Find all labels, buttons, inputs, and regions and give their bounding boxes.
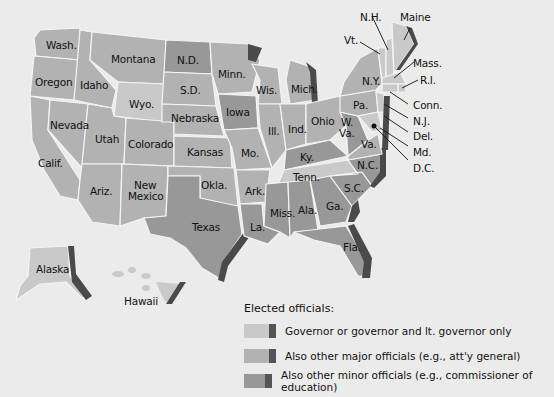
label-ga: Ga. <box>326 201 343 212</box>
label-new-mexico-2: Mexico <box>128 191 163 202</box>
label-mich: Mich. <box>291 84 318 95</box>
label-montana: Montana <box>111 54 155 65</box>
label-nc: N.C. <box>357 160 378 171</box>
legend-swatch-medium <box>244 349 276 363</box>
label-ri: R.I. <box>420 75 436 86</box>
label-tenn: Tenn. <box>293 172 320 183</box>
legend-swatch-dark <box>244 374 272 388</box>
label-miss: Miss. <box>270 208 295 219</box>
label-va: Va. <box>361 139 377 150</box>
legend-item-minor-officials: Also other minor officials (e.g., commis… <box>244 372 554 390</box>
label-ny: N.Y. <box>362 76 380 87</box>
label-texas: Texas <box>192 222 220 233</box>
label-idaho: Idaho <box>80 80 108 91</box>
legend-item-governor-only: Governor or governor and lt. governor on… <box>244 322 554 340</box>
label-pa: Pa. <box>353 100 368 111</box>
legend-label: Governor or governor and lt. governor on… <box>285 325 511 337</box>
dc-marker <box>372 124 377 129</box>
legend: Elected officials: Governor or governor … <box>244 302 554 397</box>
label-wash: Wash. <box>46 40 77 51</box>
label-vt: Vt. <box>344 35 358 46</box>
label-md: Md. <box>413 147 431 158</box>
label-ind: Ind. <box>288 124 307 135</box>
hawaii-island-4 <box>142 285 150 291</box>
label-conn: Conn. <box>413 100 442 111</box>
label-sc: S.C. <box>344 183 364 194</box>
label-sd: S.D. <box>180 85 201 96</box>
label-ky: Ky. <box>300 152 314 163</box>
label-oregon: Oregon <box>35 77 72 88</box>
label-wis: Wis. <box>256 85 277 96</box>
label-la: La. <box>250 222 265 233</box>
state-new-york <box>340 48 382 96</box>
label-wyo: Wyo. <box>129 99 154 110</box>
label-okla: Okla. <box>201 180 227 191</box>
legend-label: Also other minor officials (e.g., commis… <box>281 369 554 393</box>
label-ill: Ill. <box>268 126 279 137</box>
label-nevada: Nevada <box>50 120 89 131</box>
label-utah: Utah <box>95 134 119 145</box>
hawaii-island-3 <box>141 273 151 279</box>
label-del: Del. <box>413 131 433 142</box>
label-ohio: Ohio <box>311 116 334 127</box>
label-maine: Maine <box>400 12 431 23</box>
label-calif: Calif. <box>38 158 63 169</box>
label-wva-2: Va. <box>339 128 355 139</box>
label-alaska: Alaska <box>36 264 69 275</box>
label-mo: Mo. <box>241 148 259 159</box>
label-hawaii: Hawaii <box>124 296 158 307</box>
label-nebraska: Nebraska <box>171 113 219 124</box>
state-connecticut <box>382 84 398 92</box>
label-dc: D.C. <box>413 163 434 174</box>
hawaii-island-1 <box>112 271 124 277</box>
label-minn: Minn. <box>218 69 246 80</box>
label-fla: Fla. <box>343 242 361 253</box>
label-ark: Ark. <box>245 186 265 197</box>
label-kansas: Kansas <box>187 147 223 158</box>
legend-title: Elected officials: <box>244 302 554 315</box>
label-colorado: Colorado <box>128 139 173 150</box>
hawaii-island-2 <box>128 267 136 273</box>
label-mass: Mass. <box>413 58 442 69</box>
label-nd: N.D. <box>177 55 199 66</box>
state-new-jersey <box>376 92 384 112</box>
legend-swatch-light <box>244 324 276 338</box>
label-iowa: Iowa <box>226 107 250 118</box>
legend-item-major-officials: Also other major officials (e.g., att'y … <box>244 347 554 365</box>
legend-label: Also other major officials (e.g., att'y … <box>285 350 520 362</box>
label-ariz: Ariz. <box>90 186 112 197</box>
label-nh: N.H. <box>360 12 381 23</box>
label-ala: Ala. <box>298 205 317 216</box>
coast-alaska <box>68 246 92 300</box>
label-nj: N.J. <box>413 116 430 127</box>
